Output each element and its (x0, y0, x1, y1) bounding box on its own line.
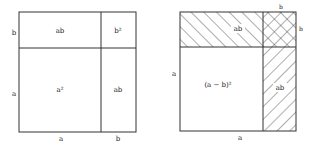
algebra-diagram: ab b² a² ab b a a b ab ab (a − b)² b b a… (0, 0, 313, 145)
right-strip-hatch (263, 12, 296, 131)
left-right-ab-label: ab (114, 86, 123, 94)
left-side-a-label: a (12, 90, 16, 98)
left-figure: ab b² a² ab b a a b (12, 12, 136, 143)
left-bottom-b-label: b (116, 135, 121, 143)
left-a-squared-label: a² (57, 86, 64, 94)
left-b-squared-label: b² (114, 27, 121, 35)
right-corner-top-b-label: b (279, 3, 283, 10)
left-top-ab-label: ab (56, 27, 65, 35)
right-bottom-a-label: a (238, 134, 242, 142)
right-corner-side-b-label: b (299, 25, 303, 32)
left-bottom-a-label: a (59, 135, 63, 143)
a-minus-b-squared-label: (a − b)² (204, 81, 231, 89)
right-right-ab-label: ab (276, 84, 285, 92)
right-figure: ab ab (a − b)² b b a a (172, 3, 303, 142)
left-side-b-label: b (12, 29, 17, 37)
right-top-ab-label: ab (234, 25, 243, 33)
right-side-a-label: a (172, 70, 176, 78)
